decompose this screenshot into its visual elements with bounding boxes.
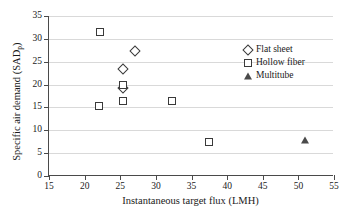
- y-axis-tick-label: 30: [33, 34, 43, 44]
- data-point-diamond: [130, 46, 141, 57]
- x-axis-tick: [334, 175, 335, 180]
- legend-item-triangle: Multitube: [243, 70, 305, 81]
- y-axis-tick: [44, 62, 49, 63]
- x-axis-tick-label: 15: [44, 182, 54, 192]
- y-axis-title-subscript: p: [15, 46, 24, 50]
- x-axis-tick: [192, 175, 193, 180]
- data-point-triangle: [301, 137, 309, 144]
- y-axis-tick-label: 0: [37, 171, 42, 181]
- diamond-icon: [243, 45, 253, 54]
- legend-item-square: Hollow fiber: [243, 57, 305, 68]
- y-axis-tick: [44, 107, 49, 108]
- y-axis-title: Specific air demand (SADp): [12, 22, 23, 182]
- y-gridline: [49, 16, 333, 17]
- y-gridline: [49, 153, 333, 154]
- legend-label: Multitube: [256, 71, 293, 81]
- y-axis-tick: [44, 130, 49, 131]
- y-axis-title-main: Specific air demand (SAD: [11, 50, 22, 161]
- y-axis-tick: [44, 153, 49, 154]
- data-point-square: [119, 97, 127, 105]
- y-axis-tick-label: 5: [37, 148, 42, 158]
- x-axis-tick-label: 20: [80, 182, 90, 192]
- x-axis-tick-label: 30: [151, 182, 161, 192]
- data-point-square: [119, 81, 127, 89]
- data-point-square: [95, 102, 103, 110]
- y-gridline: [49, 39, 333, 40]
- y-axis-tick: [44, 85, 49, 86]
- x-axis-tick: [49, 175, 50, 180]
- y-axis-tick: [44, 39, 49, 40]
- y-gridline: [49, 107, 333, 108]
- chart-legend: Flat sheetHollow fiberMultitube: [243, 44, 305, 83]
- triangle-icon: [243, 71, 253, 80]
- square-icon: [243, 58, 253, 67]
- y-axis-tick-label: 15: [33, 103, 43, 113]
- y-axis-tick-label: 10: [33, 126, 43, 136]
- data-point-square: [96, 28, 104, 36]
- x-axis-tick: [85, 175, 86, 180]
- x-axis-tick-label: 25: [116, 182, 126, 192]
- data-point-square: [205, 138, 213, 146]
- plot-area: 05101520253035152025303540455055: [48, 16, 333, 176]
- triangle-glyph: [244, 72, 252, 79]
- data-point-diamond: [117, 63, 128, 74]
- x-axis-tick: [120, 175, 121, 180]
- legend-label: Flat sheet: [256, 45, 293, 55]
- y-axis-title-close: ): [11, 43, 22, 47]
- x-axis-tick: [156, 175, 157, 180]
- x-axis-tick: [227, 175, 228, 180]
- x-axis-tick-label: 45: [258, 182, 268, 192]
- x-axis-title: Instantaneous target flux (LMH): [48, 196, 333, 207]
- x-axis-tick: [263, 175, 264, 180]
- y-gridline: [49, 130, 333, 131]
- y-axis-tick-label: 35: [33, 11, 43, 21]
- x-axis-tick-label: 40: [222, 182, 232, 192]
- square-glyph: [244, 59, 252, 67]
- legend-item-diamond: Flat sheet: [243, 44, 305, 55]
- y-gridline: [49, 85, 333, 86]
- diamond-glyph: [242, 44, 253, 55]
- x-axis-tick: [298, 175, 299, 180]
- scatter-chart-figure: 05101520253035152025303540455055 Instant…: [0, 0, 352, 218]
- y-axis-tick-label: 20: [33, 80, 43, 90]
- legend-label: Hollow fiber: [256, 58, 305, 68]
- y-axis-tick-label: 25: [33, 57, 43, 67]
- data-point-square: [168, 97, 176, 105]
- x-axis-tick-label: 35: [187, 182, 197, 192]
- y-axis-tick: [44, 16, 49, 17]
- x-axis-tick-label: 50: [294, 182, 304, 192]
- x-axis-tick-label: 55: [329, 182, 339, 192]
